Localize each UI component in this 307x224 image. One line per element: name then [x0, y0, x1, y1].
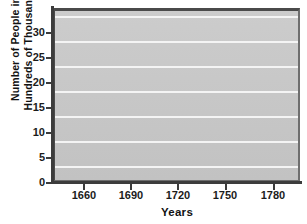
gridline-10 [55, 116, 298, 118]
y-axis-title: Number of People in Hundreds of Thousand… [9, 0, 39, 136]
y-axis-tick-20 [46, 82, 52, 84]
x-axis-label-1660: 1660 [62, 190, 106, 201]
y-axis-tick-30 [46, 32, 52, 34]
y-axis-tick-10 [46, 132, 52, 134]
y-axis-title-line-2: Hundreds of Thousands [22, 0, 35, 136]
gridline-25 [55, 41, 298, 43]
y-axis-title-line-1: Number of People in [9, 0, 22, 136]
y-axis-tick-25 [46, 57, 52, 59]
y-axis-label-0: 0 [5, 177, 45, 188]
plot-background [55, 11, 298, 180]
gridline-5 [55, 141, 298, 143]
gridline-15 [55, 91, 298, 93]
gridline-0 [55, 166, 298, 168]
y-axis-tick-5 [46, 157, 52, 159]
y-axis-tick-0 [46, 182, 52, 184]
x-axis-title: Years [52, 206, 302, 218]
gridline-30 [55, 16, 298, 18]
gridline-20 [55, 66, 298, 68]
x-axis-label-1750: 1750 [203, 190, 247, 201]
x-axis-label-1780: 1780 [251, 190, 295, 201]
x-axis-label-1690: 1690 [109, 190, 153, 201]
chart-title-cropped [118, 0, 238, 4]
y-axis-tick-15 [46, 107, 52, 109]
plot-area [52, 8, 300, 182]
x-axis-label-1720: 1720 [156, 190, 200, 201]
chart-container: 0 5 10 15 20 25 30 1660 1690 1720 1750 1… [0, 0, 307, 224]
y-axis-label-5: 5 [5, 152, 45, 163]
